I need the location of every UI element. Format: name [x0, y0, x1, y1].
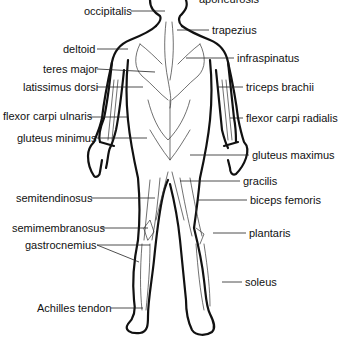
label-deltoid: deltoid — [63, 43, 95, 55]
label-flexor-carpi-radialis: flexor carpi radialis — [246, 112, 338, 124]
label-gluteus-maximus: gluteus maximus — [252, 149, 335, 161]
label-trapezius: trapezius — [212, 24, 257, 36]
label-gluteus-minimus: gluteus minimus — [17, 132, 96, 144]
label-gastrocnemius: gastrocnemius — [25, 239, 97, 251]
label-achilles-tendon: Achilles tendon — [37, 302, 112, 314]
label-soleus: soleus — [245, 276, 277, 288]
label-plantaris: plantaris — [249, 227, 291, 239]
label-semitendinosus: semitendinosus — [16, 192, 92, 204]
label-flexor-carpi-ulnaris: flexor carpi ulnaris — [3, 110, 92, 122]
label-semimembranosus: semimembranosus — [12, 222, 105, 234]
label-latissimus-dorsi: latissimus dorsi — [23, 81, 98, 93]
body-outline — [88, 0, 247, 335]
label-biceps-femoris: biceps femoris — [250, 194, 321, 206]
label-occipitalis: occipitalis — [84, 5, 132, 17]
label-teres-major: teres major — [43, 63, 98, 75]
label-gracilis: gracilis — [243, 175, 277, 187]
label-infraspinatus: infraspinatus — [237, 52, 299, 64]
label-triceps-brachii: triceps brachii — [246, 81, 314, 93]
label-aponeurosis: aponeurosis — [199, 0, 259, 5]
